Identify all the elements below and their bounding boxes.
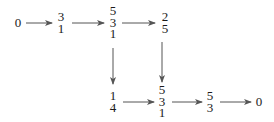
node-n2: 5 3 1 [107,5,119,40]
node-n4: 1 4 [107,90,119,113]
node-entry: 5 [162,23,169,35]
node-entry: 1 [58,23,65,35]
node-n5: 5 3 1 [156,84,168,119]
node-n7: 0 [253,96,265,108]
node-entry: 0 [15,17,22,29]
node-entry: 1 [159,107,166,119]
node-entry: 0 [256,96,263,108]
node-n1: 3 1 [55,11,67,34]
node-n3: 2 5 [159,11,171,34]
node-entry: 4 [110,102,117,114]
diagram-edges [0,0,274,122]
node-entry: 1 [110,28,117,40]
node-entry: 3 [207,102,214,114]
node-n0: 0 [12,17,24,29]
node-n6: 5 3 [204,90,216,113]
